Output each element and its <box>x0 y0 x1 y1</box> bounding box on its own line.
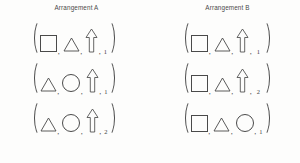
triangle-icon <box>214 60 231 94</box>
column-header-arrangement-a: Arrangement A <box>0 4 149 11</box>
square-icon <box>191 60 208 94</box>
separator-comma: , <box>250 88 252 97</box>
open-paren <box>33 19 40 55</box>
square-icon <box>191 100 208 134</box>
separator-comma: , <box>80 48 82 57</box>
column-header-arrangement-b: Arrangement B <box>149 4 300 11</box>
separator-comma: , <box>99 48 101 57</box>
triangle-icon <box>40 100 57 134</box>
separator-comma: , <box>254 128 256 137</box>
separator-comma: , <box>231 48 233 57</box>
arrow-up-icon <box>85 20 98 54</box>
close-paren <box>264 99 271 135</box>
circle-icon <box>236 100 254 134</box>
arrow-up-icon <box>236 20 249 54</box>
separator-comma: , <box>231 88 233 97</box>
circle-icon <box>62 60 80 94</box>
square-icon <box>40 20 57 54</box>
tuple-row: , , , 1 <box>33 17 116 57</box>
tuple-row: , , , 1 <box>184 17 271 57</box>
close-paren <box>109 59 116 95</box>
close-paren <box>109 99 116 135</box>
separator-comma: , <box>99 88 101 97</box>
tuple-row: , , , 1 <box>33 57 117 97</box>
tuple-row: , , , 1 <box>184 97 272 137</box>
open-paren <box>184 99 191 135</box>
square-icon <box>191 20 208 54</box>
separator-comma: , <box>57 128 59 137</box>
open-paren <box>33 99 40 135</box>
triangle-icon <box>40 60 57 94</box>
open-paren <box>33 59 40 95</box>
separator-comma: , <box>208 128 210 137</box>
separator-comma: , <box>250 48 252 57</box>
tuple-columns: , , , 1 <box>0 17 300 137</box>
separator-comma: , <box>209 48 211 57</box>
arrow-up-icon <box>236 60 249 94</box>
column-headers: Arrangement A Arrangement B <box>0 0 300 11</box>
column-arrangement-b: , , , 1 <box>147 17 300 137</box>
separator-comma: , <box>81 88 83 97</box>
close-paren <box>109 19 116 55</box>
separator-comma: , <box>58 48 60 57</box>
separator-comma: , <box>57 88 59 97</box>
separator-comma: , <box>81 128 83 137</box>
triangle-icon <box>63 20 80 54</box>
circle-icon <box>62 100 80 134</box>
arrow-up-icon <box>86 60 99 94</box>
tuple-row: , , , 2 <box>33 97 117 137</box>
close-paren <box>264 59 271 95</box>
open-paren <box>184 19 191 55</box>
separator-comma: , <box>209 88 211 97</box>
triangle-icon <box>214 20 231 54</box>
close-paren <box>264 19 271 55</box>
arrow-up-icon <box>86 100 99 134</box>
separator-comma: , <box>231 128 233 137</box>
column-arrangement-a: , , , 1 <box>0 17 147 137</box>
arrangement-figure: Arrangement A Arrangement B , , <box>0 0 300 163</box>
open-paren <box>184 59 191 95</box>
separator-comma: , <box>99 128 101 137</box>
triangle-icon <box>213 100 230 134</box>
tuple-row: , , , 2 <box>184 57 271 97</box>
